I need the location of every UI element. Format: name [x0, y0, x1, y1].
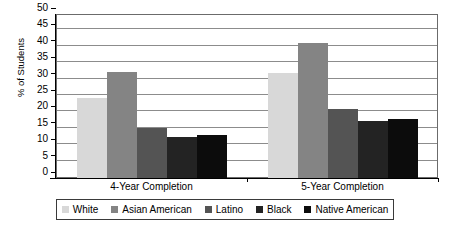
y-axis-tick: 50: [37, 2, 56, 14]
legend-label: Black: [267, 204, 291, 215]
legend-swatch: [256, 206, 263, 213]
bars-layer: [56, 14, 438, 178]
y-axis-tick: 30: [37, 68, 56, 80]
y-axis-tick-label: 20: [37, 100, 48, 112]
legend-swatch: [205, 206, 212, 213]
y-axis-tick: 15: [37, 117, 56, 129]
y-axis-tick: 35: [37, 51, 56, 63]
chart-legend: WhiteAsian AmericanLatinoBlackNative Ame…: [56, 199, 394, 220]
legend-swatch: [111, 206, 118, 213]
y-axis-tick: 45: [37, 18, 56, 30]
bar[interactable]: [358, 121, 388, 178]
legend-item[interactable]: Asian American: [111, 204, 191, 215]
y-axis-tick-label: 30: [37, 68, 48, 80]
y-axis-tick-label: 5: [42, 150, 48, 162]
y-axis-tick: 25: [37, 84, 56, 96]
y-axis-tick-label: 10: [37, 133, 48, 145]
bar[interactable]: [328, 109, 358, 178]
x-axis-tick-mark: [438, 178, 439, 182]
bar-group: [56, 14, 247, 178]
legend-label: Asian American: [122, 204, 191, 215]
legend-swatch: [304, 206, 311, 213]
x-axis-tick-label: 5-Year Completion: [273, 181, 413, 192]
bar[interactable]: [77, 98, 107, 178]
legend-item[interactable]: White: [62, 204, 99, 215]
bar[interactable]: [268, 73, 298, 178]
y-axis-tick-mark: [51, 8, 56, 9]
legend-item[interactable]: Native American: [304, 204, 388, 215]
legend-label: White: [73, 204, 99, 215]
y-axis-tick-label: 45: [37, 18, 48, 30]
x-axis-line: [50, 178, 439, 179]
legend-item[interactable]: Latino: [205, 204, 243, 215]
y-axis-tick-label: 0: [42, 166, 48, 178]
legend-item[interactable]: Black: [256, 204, 291, 215]
x-axis-tick-mark: [247, 178, 248, 182]
legend-label: Native American: [315, 204, 388, 215]
y-axis-tick: 20: [37, 100, 56, 112]
bar[interactable]: [107, 72, 137, 178]
bar[interactable]: [388, 119, 418, 178]
legend-swatch: [62, 206, 69, 213]
y-axis-tick-label: 40: [37, 35, 48, 47]
y-axis-tick: 5: [42, 150, 56, 162]
x-axis-tick-label: 4-Year Completion: [82, 181, 222, 192]
y-axis-tick: 40: [37, 35, 56, 47]
bar[interactable]: [298, 43, 328, 178]
legend-label: Latino: [216, 204, 243, 215]
y-axis-tick: 10: [37, 133, 56, 145]
bar-group: [247, 14, 438, 178]
y-axis-tick-label: 25: [37, 84, 48, 96]
bar[interactable]: [137, 128, 167, 178]
y-axis-tick-label: 35: [37, 51, 48, 63]
bar[interactable]: [197, 135, 227, 178]
y-axis-tick: 0: [42, 166, 56, 178]
bar-chart: % of Students 05101520253035404550 4-Yea…: [0, 0, 450, 232]
bar[interactable]: [167, 137, 197, 178]
y-axis-tick-label: 50: [37, 2, 48, 14]
y-axis-tick-label: 15: [37, 117, 48, 129]
y-axis-ticks: 05101520253035404550: [0, 14, 56, 178]
